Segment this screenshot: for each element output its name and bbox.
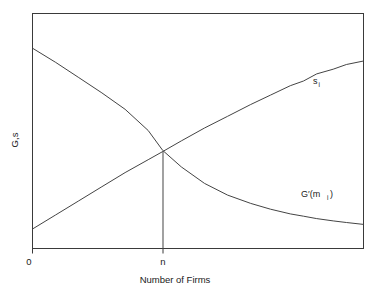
- economics-line-chart: 0 n Number of Firms G,s s i G′(m i ): [0, 0, 381, 291]
- series-label-g-tail: ): [330, 189, 333, 199]
- series-label-g-subscript: i: [327, 194, 328, 201]
- series-label-g-main: G′(m: [301, 189, 320, 199]
- y-axis-title: G,s: [9, 132, 20, 147]
- plot-frame: [33, 14, 364, 249]
- x-tick-label-origin: 0: [26, 256, 31, 267]
- curve-s-i: [33, 61, 364, 229]
- x-tick-label-n: n: [160, 256, 165, 267]
- series-label-s-subscript: i: [319, 81, 320, 88]
- figure-root: 0 n Number of Firms G,s s i G′(m i ): [0, 0, 381, 291]
- series-label-s-main: s: [313, 76, 318, 86]
- x-axis-title: Number of Firms: [140, 274, 211, 285]
